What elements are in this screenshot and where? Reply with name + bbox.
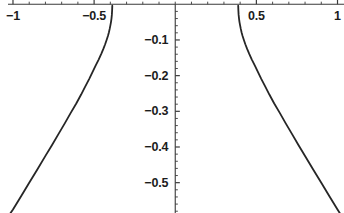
series-line-branch-left bbox=[3, 6, 112, 213]
data-series-group bbox=[3, 6, 344, 213]
x-axis-group bbox=[8, 0, 344, 4]
series-line-branch-right bbox=[238, 6, 344, 213]
x-axis-tick-label: −1 bbox=[6, 10, 20, 23]
y-axis-tick-label: −0.4 bbox=[144, 141, 168, 154]
x-axis-tick-label: 0.5 bbox=[248, 10, 265, 23]
y-axis-tick-label: −0.1 bbox=[144, 34, 168, 47]
y-axis-tick-label: −0.3 bbox=[144, 105, 168, 118]
y-axis-group bbox=[175, 4, 180, 213]
plot-canvas bbox=[0, 0, 344, 213]
y-axis-tick-label: −0.2 bbox=[144, 69, 168, 82]
plot-figure: −1−0.50.51 −0.1−0.2−0.3−0.4−0.5 bbox=[0, 0, 344, 213]
x-axis-tick-label: 1 bbox=[334, 10, 341, 23]
x-axis-tick-label: −0.5 bbox=[82, 10, 106, 23]
y-axis-tick-label: −0.5 bbox=[144, 176, 168, 189]
